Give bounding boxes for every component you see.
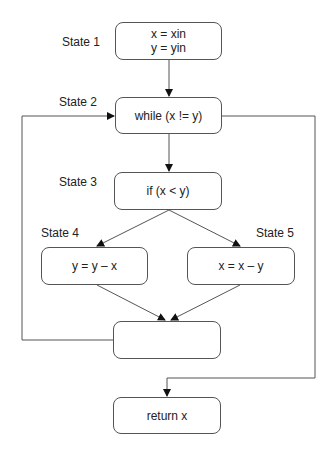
node-return: return x	[113, 397, 221, 434]
state-4-label: State 4	[41, 226, 79, 240]
state-2-label: State 2	[59, 95, 97, 109]
node-x-minus-y: x = x – y	[187, 247, 295, 285]
node-if: if (x < y)	[114, 172, 222, 210]
node-while: while (x != y)	[115, 97, 222, 134]
node-y-minus-x-text: y = y – x	[72, 259, 117, 273]
node-join	[113, 321, 221, 359]
node-if-text: if (x < y)	[146, 184, 189, 198]
state-1-label: State 1	[62, 35, 100, 49]
node-y-minus-x: y = y – x	[41, 247, 148, 285]
node-init-line-2: y = yin	[151, 41, 186, 55]
node-init: x = xin y = yin	[115, 22, 222, 60]
state-3-label: State 3	[59, 175, 97, 189]
state-5-label: State 5	[256, 226, 294, 240]
node-return-text: return x	[147, 409, 188, 423]
node-init-line-1: x = xin	[151, 27, 186, 41]
node-x-minus-y-text: x = x – y	[218, 259, 263, 273]
node-while-text: while (x != y)	[135, 109, 203, 123]
